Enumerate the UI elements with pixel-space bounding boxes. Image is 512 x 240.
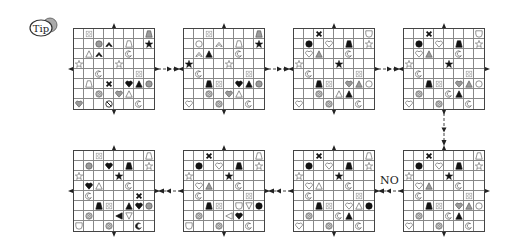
grid-5 — [73, 150, 155, 232]
axis-arrow-bottom — [332, 110, 336, 115]
grid-cell — [364, 201, 374, 211]
grid-cell — [444, 39, 454, 49]
crescent-icon — [125, 50, 133, 58]
grid-cell — [414, 89, 424, 99]
grid-cell — [244, 161, 254, 171]
grid-cell — [474, 171, 484, 181]
grid-cell — [324, 211, 334, 221]
grid-cell — [74, 99, 84, 109]
grid-cell — [354, 59, 364, 69]
grid-cell — [214, 39, 224, 49]
grid-cell — [254, 171, 264, 181]
grid-cell — [314, 79, 324, 89]
grid-cell — [194, 69, 204, 79]
grid-cell — [364, 171, 374, 181]
grid-cell — [254, 151, 264, 161]
grid-cell — [334, 59, 344, 69]
tri-left-icon — [115, 212, 123, 220]
tri-icon — [345, 90, 353, 98]
grid-cell — [74, 211, 84, 221]
grid-cell — [134, 201, 144, 211]
grid-cell — [114, 221, 124, 231]
tip-icon: Tip — [27, 16, 59, 38]
grid-cell — [84, 79, 94, 89]
grid-cell — [424, 79, 434, 89]
grid-7 — [293, 150, 375, 232]
grid-cell — [134, 211, 144, 221]
grid-cell — [94, 151, 104, 161]
x-icon — [105, 80, 113, 88]
grid-cell — [234, 49, 244, 59]
grid-cell — [364, 191, 374, 201]
circle-icon — [255, 202, 263, 210]
grid-cell — [314, 191, 324, 201]
grid-cell — [304, 181, 314, 191]
grid-cell — [124, 181, 134, 191]
grid-cell — [304, 29, 314, 39]
crescent-icon — [305, 70, 313, 78]
trap-icon — [235, 40, 243, 48]
axis-arrow-left — [68, 67, 73, 71]
hatch-icon — [435, 100, 443, 108]
grid-cell — [424, 221, 434, 231]
crescent-icon — [415, 70, 423, 78]
grid-cell — [94, 221, 104, 231]
tri-left-icon — [225, 212, 233, 220]
grid-cell — [364, 161, 374, 171]
grid-cell — [84, 211, 94, 221]
grid-cell — [184, 161, 194, 171]
grid-cell — [404, 191, 414, 201]
grid-cell — [464, 79, 474, 89]
heart-icon — [325, 40, 333, 48]
tri-icon — [455, 90, 463, 98]
grid-cell — [314, 99, 324, 109]
grid-cell — [224, 79, 234, 89]
trap-icon — [145, 30, 153, 38]
grid-cell — [244, 211, 254, 221]
grid-cell — [214, 171, 224, 181]
grid-cell — [324, 39, 334, 49]
trap-icon — [235, 162, 243, 170]
grid-cell — [214, 69, 224, 79]
grid-cell — [424, 201, 434, 211]
grid-cell — [424, 211, 434, 221]
grid-cell — [94, 79, 104, 89]
grid-cell — [134, 89, 144, 99]
grid-cell — [414, 221, 424, 231]
grid-cell — [84, 161, 94, 171]
grid-cell — [304, 69, 314, 79]
star-icon — [405, 172, 413, 180]
hatch-icon — [195, 212, 203, 220]
grid-cell — [474, 89, 484, 99]
grid-cell — [104, 69, 114, 79]
grid-cell — [354, 151, 364, 161]
grid-cell — [114, 171, 124, 181]
arrow-8-7-icon — [378, 187, 400, 195]
grid-cell — [144, 89, 154, 99]
star-icon — [445, 60, 453, 68]
hatch-icon — [205, 90, 213, 98]
crescent-icon — [345, 182, 353, 190]
grid-cell — [474, 39, 484, 49]
trap-icon — [205, 80, 213, 88]
tri-icon — [245, 80, 253, 88]
grid-cell — [344, 79, 354, 89]
grid-cell — [464, 69, 474, 79]
grid-cell — [104, 171, 114, 181]
grid-cell — [144, 221, 154, 231]
grid-cell — [454, 59, 464, 69]
grid-cell — [314, 69, 324, 79]
grid-cell — [454, 49, 464, 59]
trap-icon — [255, 30, 263, 38]
star-icon — [365, 40, 373, 48]
grid-cell — [104, 39, 114, 49]
ornate-icon — [355, 70, 363, 78]
grid-cell — [464, 191, 474, 201]
crescent-icon — [355, 100, 363, 108]
grid-cell — [434, 39, 444, 49]
chevron-icon — [105, 40, 113, 48]
grid-cell — [344, 59, 354, 69]
tri-icon — [425, 50, 433, 58]
grid-cell — [124, 79, 134, 89]
grid-cell — [194, 99, 204, 109]
